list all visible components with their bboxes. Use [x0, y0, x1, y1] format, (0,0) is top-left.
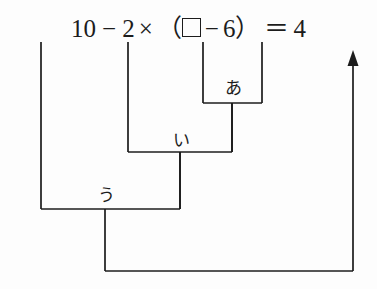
result-arrow-head — [348, 50, 359, 66]
diagram-page: 1 0 − 2 × （ − 6 ） ＝ 4 あ い う — [0, 0, 377, 289]
bracket-lines — [41, 42, 353, 271]
arrow-head — [348, 50, 359, 66]
bracket-label-a: あ — [225, 80, 242, 97]
bracket-label-i: い — [173, 132, 190, 149]
bracket-label-u: う — [98, 187, 115, 204]
